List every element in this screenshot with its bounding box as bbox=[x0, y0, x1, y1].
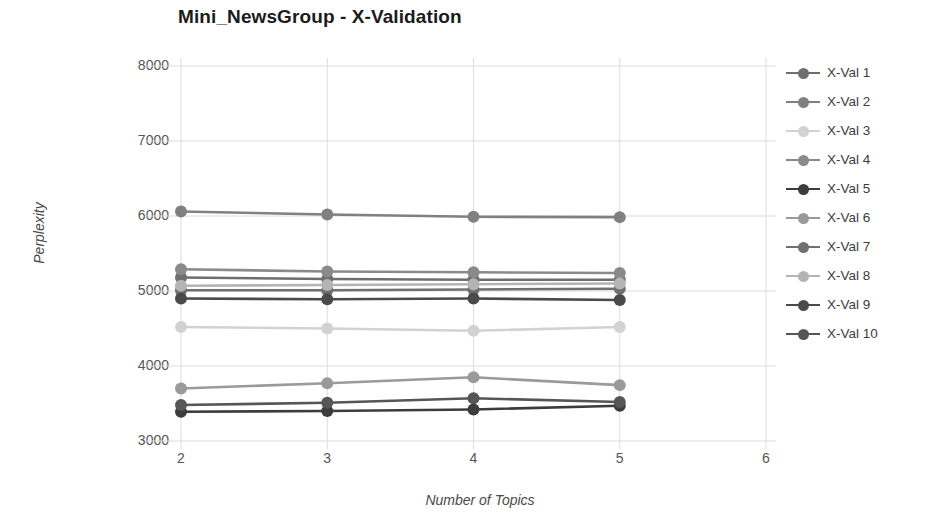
data-point[interactable] bbox=[468, 371, 480, 383]
chart-container: Mini_NewsGroup - X-Validation Perplexity… bbox=[0, 0, 944, 525]
legend-label: X-Val 3 bbox=[827, 123, 870, 138]
legend-item-7[interactable]: X-Val 7 bbox=[786, 232, 936, 261]
legend-item-2[interactable]: X-Val 2 bbox=[786, 87, 936, 116]
data-point[interactable] bbox=[321, 209, 333, 221]
chart-legend: X-Val 1X-Val 2X-Val 3X-Val 4X-Val 5X-Val… bbox=[786, 58, 936, 348]
series-4 bbox=[175, 263, 626, 279]
data-point[interactable] bbox=[175, 280, 187, 292]
data-point[interactable] bbox=[468, 278, 480, 290]
legend-item-1[interactable]: X-Val 1 bbox=[786, 58, 936, 87]
series-3 bbox=[175, 321, 626, 337]
series-line bbox=[181, 278, 620, 280]
data-point[interactable] bbox=[175, 399, 187, 411]
data-point[interactable] bbox=[614, 396, 626, 408]
series-line bbox=[181, 398, 620, 405]
data-point[interactable] bbox=[175, 383, 187, 395]
series-line bbox=[181, 284, 620, 286]
legend-marker-icon bbox=[786, 328, 820, 340]
legend-marker-icon bbox=[786, 154, 820, 166]
data-point[interactable] bbox=[614, 379, 626, 391]
data-point[interactable] bbox=[468, 266, 480, 278]
legend-label: X-Val 1 bbox=[827, 65, 870, 80]
legend-label: X-Val 6 bbox=[827, 210, 870, 225]
series-line bbox=[181, 269, 620, 273]
legend-label: X-Val 8 bbox=[827, 268, 870, 283]
data-point[interactable] bbox=[468, 293, 480, 305]
series-5 bbox=[175, 400, 626, 418]
series-line bbox=[181, 327, 620, 331]
legend-marker-icon bbox=[786, 96, 820, 108]
data-point[interactable] bbox=[614, 267, 626, 279]
legend-label: X-Val 5 bbox=[827, 181, 870, 196]
data-point[interactable] bbox=[321, 377, 333, 389]
legend-item-6[interactable]: X-Val 6 bbox=[786, 203, 936, 232]
legend-label: X-Val 2 bbox=[827, 94, 870, 109]
legend-item-8[interactable]: X-Val 8 bbox=[786, 261, 936, 290]
data-point[interactable] bbox=[614, 278, 626, 290]
data-point[interactable] bbox=[175, 206, 187, 218]
series-6 bbox=[175, 371, 626, 394]
data-series-group bbox=[175, 206, 626, 418]
legend-item-4[interactable]: X-Val 4 bbox=[786, 145, 936, 174]
data-point[interactable] bbox=[468, 404, 480, 416]
legend-label: X-Val 7 bbox=[827, 239, 870, 254]
legend-marker-icon bbox=[786, 241, 820, 253]
series-2 bbox=[175, 206, 626, 224]
data-point[interactable] bbox=[321, 293, 333, 305]
legend-marker-icon bbox=[786, 270, 820, 282]
legend-label: X-Val 10 bbox=[827, 326, 878, 341]
gridlines bbox=[145, 58, 776, 449]
data-point[interactable] bbox=[614, 321, 626, 333]
series-line bbox=[181, 377, 620, 388]
series-line bbox=[181, 289, 620, 291]
legend-label: X-Val 4 bbox=[827, 152, 870, 167]
series-line bbox=[181, 406, 620, 412]
data-point[interactable] bbox=[321, 266, 333, 278]
legend-marker-icon bbox=[786, 299, 820, 311]
legend-item-5[interactable]: X-Val 5 bbox=[786, 174, 936, 203]
legend-item-3[interactable]: X-Val 3 bbox=[786, 116, 936, 145]
legend-label: X-Val 9 bbox=[827, 297, 870, 312]
legend-marker-icon bbox=[786, 125, 820, 137]
data-point[interactable] bbox=[175, 263, 187, 275]
series-line bbox=[181, 299, 620, 301]
legend-marker-icon bbox=[786, 183, 820, 195]
data-point[interactable] bbox=[468, 325, 480, 337]
data-point[interactable] bbox=[321, 279, 333, 291]
legend-marker-icon bbox=[786, 67, 820, 79]
data-point[interactable] bbox=[175, 321, 187, 333]
legend-marker-icon bbox=[786, 212, 820, 224]
data-point[interactable] bbox=[468, 392, 480, 404]
series-9 bbox=[175, 293, 626, 307]
data-point[interactable] bbox=[468, 211, 480, 223]
data-point[interactable] bbox=[175, 293, 187, 305]
data-point[interactable] bbox=[321, 323, 333, 335]
data-point[interactable] bbox=[614, 294, 626, 306]
legend-item-9[interactable]: X-Val 9 bbox=[786, 290, 936, 319]
data-point[interactable] bbox=[321, 397, 333, 409]
legend-item-10[interactable]: X-Val 10 bbox=[786, 319, 936, 348]
data-point[interactable] bbox=[614, 211, 626, 223]
